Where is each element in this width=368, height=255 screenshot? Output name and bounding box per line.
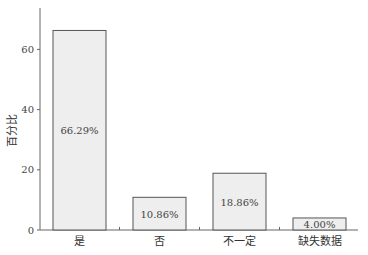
bar-group: 18.86%不一定 (213, 173, 266, 248)
x-category-label: 缺失数据 (298, 234, 342, 248)
bars: 66.29%是10.86%否18.86%不一定4.00%缺失数据 (53, 30, 346, 248)
bar-value-label: 66.29% (60, 125, 98, 136)
bar-chart: 0204060 66.29%是10.86%否18.86%不一定4.00%缺失数据… (0, 0, 368, 255)
x-category-label: 不一定 (223, 234, 256, 248)
y-tick-label: 60 (21, 44, 34, 55)
bar-value-label: 10.86% (140, 209, 178, 220)
bar-value-label: 18.86% (220, 197, 258, 208)
y-tick-label: 0 (28, 225, 34, 236)
bar-group: 10.86%否 (133, 197, 186, 248)
x-category-label: 是 (74, 235, 85, 248)
y-axis-label: 百分比 (6, 114, 19, 147)
y-tick-label: 20 (21, 164, 34, 175)
bar-value-label: 4.00% (304, 219, 336, 230)
x-category-label: 否 (154, 235, 165, 248)
y-tick-label: 40 (21, 104, 34, 115)
bar-group: 4.00%缺失数据 (293, 218, 346, 248)
bar-group: 66.29%是 (53, 30, 106, 248)
y-axis: 0204060 (21, 8, 40, 236)
